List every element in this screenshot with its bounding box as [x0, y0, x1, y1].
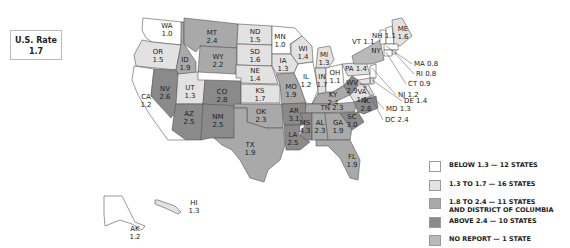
state-abbr-ms: MS: [300, 119, 311, 127]
legend-swatch-high: [429, 217, 441, 228]
state-abbr-ca: CA: [141, 93, 151, 101]
state-value-me: 1.6: [397, 33, 409, 41]
state-label-pa: PA 1.4: [345, 65, 367, 73]
legend-label-mid-line2: AND DISTRICT OF COLUMBIA: [449, 206, 554, 214]
state-value-id: 1.9: [179, 64, 190, 72]
state-value-wa: 1.0: [161, 30, 172, 38]
state-abbr-oh: OH: [330, 69, 341, 77]
state-ma: [384, 44, 398, 50]
state-abbr-mn: MN: [274, 33, 285, 41]
legend-label-mid-line1: 1.8 TO 2.4 — 11 STATES: [449, 198, 554, 206]
state-value-mo: 1.9: [285, 91, 296, 99]
state-value-az: 2.5: [183, 118, 194, 126]
state-value-ca: 1.2: [140, 101, 151, 109]
state-abbr-ar: AR: [289, 107, 299, 115]
state-abbr-sc: SC: [347, 113, 356, 121]
state-abbr-sd: SD: [250, 48, 260, 56]
state-value-in: 1.7: [316, 81, 327, 89]
state-abbr-mo: MO: [285, 83, 297, 91]
state-value-il: 1.2: [300, 81, 311, 89]
state-value-wy: 2.2: [212, 61, 223, 69]
state-abbr-nm: NM: [212, 113, 223, 121]
state-value-mi: 1.3: [318, 59, 329, 67]
state-label-md: MD 1.3: [386, 105, 411, 113]
state-value-nm: 2.5: [212, 121, 223, 129]
state-value-nc: 2.6: [360, 105, 372, 113]
state-hi: [155, 200, 181, 214]
state-abbr-id: ID: [181, 56, 188, 64]
state-abbr-wv: WV: [346, 79, 358, 87]
state-value-oh: 1.1: [329, 77, 340, 85]
legend-label-mid: 1.8 TO 2.4 — 11 STATES AND DISTRICT OF C…: [449, 198, 554, 214]
state-value-ks: 1.7: [254, 95, 265, 103]
state-value-nv: 2.6: [159, 93, 171, 101]
state-abbr-ga: GA: [333, 119, 343, 127]
state-abbr-mt: MT: [207, 29, 218, 37]
state-label-ri: RI 0.8: [416, 70, 436, 78]
legend-swatch-noreport: [429, 235, 441, 246]
state-abbr-mi: MI: [320, 51, 328, 59]
state-abbr-co: CO: [217, 88, 228, 96]
legend-swatch-low: [429, 180, 441, 191]
state-abbr-tx: TX: [244, 141, 254, 149]
leader-line-ct: [386, 52, 406, 84]
state-abbr-ak: AK: [130, 225, 140, 233]
state-abbr-va: VA: [357, 88, 366, 96]
state-value-ne: 1.4: [249, 75, 261, 83]
state-label-tn: TN 2.3: [320, 104, 344, 112]
state-value-ga: 1.9: [332, 127, 343, 135]
state-label-ma: MA 0.8: [414, 60, 438, 68]
leader-line-nj: [372, 68, 396, 95]
state-value-mn: 1.0: [274, 41, 285, 49]
state-value-va: 1.5: [356, 96, 367, 104]
state-label-de: DE 1.4: [404, 97, 428, 105]
state-value-ia: 1.3: [277, 65, 288, 73]
state-value-or: 1.5: [152, 56, 163, 64]
state-value-ms: 4.3: [299, 127, 310, 135]
state-value-sc: 3.0: [346, 121, 357, 129]
state-md: [358, 78, 370, 84]
state-abbr-wi: WI: [299, 45, 308, 53]
state-abbr-ky: KY: [329, 91, 338, 99]
state-abbr-nd: ND: [250, 28, 261, 36]
state-abbr-ne: NE: [250, 67, 260, 75]
legend-label-below: BELOW 1.3 — 12 STATES: [449, 161, 538, 169]
state-value-la: 2.5: [287, 139, 298, 147]
state-value-ok: 2.3: [255, 116, 266, 124]
state-abbr-ks: KS: [255, 87, 265, 95]
state-value-nd: 1.5: [249, 36, 260, 44]
state-abbr-wy: WY: [212, 53, 224, 61]
state-abbr-fl: FL: [348, 153, 356, 161]
state-abbr-az: AZ: [184, 110, 194, 118]
legend-label-noreport: NO REPORT — 1 STATE: [449, 235, 531, 243]
state-value-hi: 1.3: [188, 207, 199, 215]
state-value-ar: 3.1: [288, 115, 299, 123]
state-abbr-in: IN: [318, 73, 325, 81]
state-label-dc: DC 2.4: [385, 116, 409, 124]
state-value-co: 2.8: [216, 96, 227, 104]
state-value-tx: 1.9: [244, 149, 255, 157]
state-value-ak: 1.2: [129, 233, 140, 241]
state-abbr-il: IL: [303, 73, 309, 81]
state-abbr-hi: HI: [190, 199, 197, 207]
legend-swatch-mid: [429, 198, 441, 209]
state-abbr-la: LA: [289, 131, 298, 139]
state-value-fl: 1.9: [346, 161, 357, 169]
state-value-sd: 1.6: [249, 56, 261, 64]
state-nj: [370, 64, 376, 78]
leader-line-ri: [394, 52, 414, 74]
state-label-nh: NH 1.1: [372, 32, 396, 40]
state-value-wv: 2.9: [346, 87, 357, 95]
state-value-al: 2.3: [314, 127, 325, 135]
legend-label-high: ABOVE 2.4 — 10 STATES: [449, 217, 537, 225]
state-abbr-ia: IA: [280, 57, 287, 65]
state-abbr-ny: NY: [371, 47, 381, 55]
legend-label-low: 1.3 TO 1.7 — 16 STATES: [449, 180, 536, 188]
state-abbr-al: AL: [316, 119, 325, 127]
legend-swatch-below: [429, 161, 441, 172]
state-abbr-wa: WA: [161, 22, 173, 30]
state-abbr-ok: OK: [256, 108, 267, 116]
state-label-ct: CT 0.9: [408, 80, 431, 88]
state-abbr-ut: UT: [185, 84, 195, 92]
state-value-ut: 1.3: [184, 92, 195, 100]
